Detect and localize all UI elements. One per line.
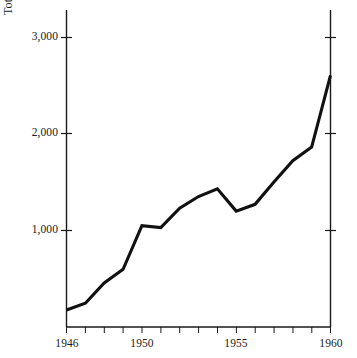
y-tick-label-1000: 1,000 (6, 223, 58, 235)
x-tick-label-1960: 1960 (310, 337, 352, 349)
x-tick-label-1946: 1946 (46, 337, 88, 349)
x-tick-group (67, 327, 331, 333)
data-series-line (67, 75, 331, 310)
chart-plot-area (0, 0, 357, 358)
x-tick-label-1950: 1950 (121, 337, 163, 349)
y-tick-label-3000: 3,000 (6, 30, 58, 42)
chart-figure: Total annual pages of articles in Progre… (0, 0, 357, 358)
x-tick-label-1955: 1955 (215, 337, 257, 349)
y-tick-label-2000: 2,000 (6, 126, 58, 138)
